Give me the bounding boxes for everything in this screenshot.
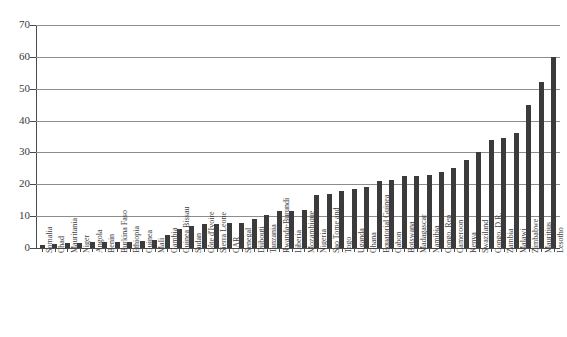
y-tick-label: 50 — [4, 83, 30, 94]
x-tick-mark — [491, 248, 492, 252]
x-tick-label: Lesotho — [557, 227, 565, 253]
x-tick-mark — [217, 248, 218, 252]
x-tick-mark — [504, 248, 505, 252]
y-tick-label: 20 — [4, 178, 30, 189]
x-tick-mark — [192, 248, 193, 252]
x-tick-label: Somalia — [46, 227, 54, 253]
x-tick-label: Sao Tome and — [333, 207, 341, 253]
x-tick-label: Chad — [58, 236, 66, 253]
x-tick-mark — [67, 248, 68, 252]
x-tick-mark — [354, 248, 355, 252]
y-tick-mark — [30, 57, 36, 58]
x-tick-mark — [179, 248, 180, 252]
x-tick-mark — [117, 248, 118, 252]
x-tick-mark — [55, 248, 56, 252]
x-tick-mark — [42, 248, 43, 252]
x-tick-label: Sudan — [195, 233, 203, 253]
x-tick-mark — [404, 248, 405, 252]
x-tick-label: Zambia — [507, 229, 515, 253]
y-tick-label: 30 — [4, 146, 30, 157]
y-tick-label: 60 — [4, 51, 30, 62]
x-tick-mark — [242, 248, 243, 252]
x-tick-mark — [204, 248, 205, 252]
y-axis: 010203040506070 — [0, 0, 30, 337]
y-tick-mark — [30, 89, 36, 90]
bar-chart-figure: 010203040506070 SomaliaChadMauritaniaNig… — [0, 0, 567, 337]
x-tick-mark — [142, 248, 143, 252]
x-tick-mark — [516, 248, 517, 252]
x-tick-mark — [342, 248, 343, 252]
x-tick-label: Guinea — [146, 230, 154, 253]
x-tick-label: Botswana — [408, 221, 416, 253]
x-tick-mark — [167, 248, 168, 252]
x-tick-label: Guinea Bissau — [183, 207, 191, 253]
x-tick-mark — [304, 248, 305, 252]
x-tick-mark — [329, 248, 330, 252]
x-tick-label: Madagascar — [420, 214, 428, 253]
x-tick-mark — [130, 248, 131, 252]
x-tick-label: Uganda — [358, 228, 366, 253]
x-tick-mark — [367, 248, 368, 252]
x-tick-label: Angola — [96, 229, 104, 253]
x-tick-label: Djibouti — [258, 226, 266, 253]
y-tick-label: 40 — [4, 115, 30, 126]
bar — [551, 57, 556, 248]
bars-group — [36, 25, 560, 248]
x-tick-label: Niger — [83, 235, 91, 253]
x-tick-mark — [267, 248, 268, 252]
x-tick-label: Nigeria — [320, 229, 328, 253]
y-tick-mark — [30, 184, 36, 185]
x-tick-mark — [554, 248, 555, 252]
x-tick-mark — [379, 248, 380, 252]
x-tick-label: Tanzania — [270, 224, 278, 253]
x-tick-label: Ghana — [370, 232, 378, 253]
x-tick-label: Congo. D.R. — [495, 213, 503, 253]
x-tick-label: Burkina Faso — [121, 210, 129, 253]
x-tick-label: Mali — [158, 238, 166, 253]
x-tick-mark — [529, 248, 530, 252]
y-tick-label: 0 — [4, 242, 30, 253]
plot-area — [36, 25, 560, 248]
x-tick-mark — [254, 248, 255, 252]
x-tick-label: Togo — [345, 237, 353, 253]
x-tick-label: Gabon — [395, 232, 403, 253]
x-tick-mark — [279, 248, 280, 252]
x-tick-label: Mozambique — [308, 211, 316, 253]
x-tick-label: Kenya — [470, 232, 478, 253]
x-tick-label: Mauritania — [71, 218, 79, 253]
x-tick-label: Benin — [108, 234, 116, 253]
x-tick-label: Equatorial Guinea — [383, 195, 391, 253]
y-tick-mark — [30, 216, 36, 217]
x-tick-label: Rwanda-Burundi — [283, 198, 291, 253]
x-tick-label: Senegal — [245, 228, 253, 253]
x-tick-mark — [441, 248, 442, 252]
x-tick-mark — [479, 248, 480, 252]
x-tick-label: Swaziland — [482, 220, 490, 253]
x-tick-mark — [417, 248, 418, 252]
y-tick-mark — [30, 248, 36, 249]
x-tick-mark — [541, 248, 542, 252]
x-tick-label: Liberia — [295, 230, 303, 253]
x-tick-mark — [466, 248, 467, 252]
x-axis-labels: SomaliaChadMauritaniaNigerAngolaBeninBur… — [36, 253, 560, 337]
x-tick-label: Gambia — [171, 228, 179, 253]
x-tick-mark — [454, 248, 455, 252]
x-tick-mark — [105, 248, 106, 252]
x-tick-label: Namibia — [433, 225, 441, 253]
y-tick-label: 70 — [4, 19, 30, 30]
x-tick-mark — [392, 248, 393, 252]
x-tick-label: Sierra Leone — [220, 212, 228, 253]
x-tick-mark — [292, 248, 293, 252]
x-tick-label: CAR — [233, 237, 241, 253]
x-tick-mark — [317, 248, 318, 252]
x-tick-label: Ethiopia — [133, 226, 141, 253]
x-tick-label: Mauritius — [545, 222, 553, 253]
y-tick-mark — [30, 25, 36, 26]
x-tick-mark — [229, 248, 230, 252]
x-tick-mark — [429, 248, 430, 252]
x-tick-label: Cameroon — [457, 220, 465, 253]
x-tick-label: Malawi — [520, 229, 528, 253]
x-tick-label: Congo. Rep — [445, 215, 453, 253]
x-tick-label: Côte d'Ivoire — [208, 211, 216, 253]
y-tick-mark — [30, 152, 36, 153]
